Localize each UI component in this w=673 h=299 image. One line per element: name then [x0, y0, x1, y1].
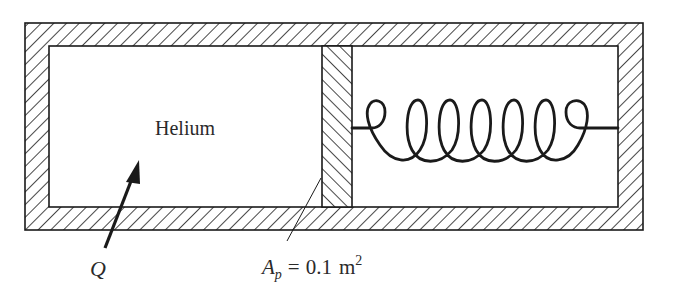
- heat-label: Q: [90, 256, 106, 281]
- heat-arrow: [105, 160, 140, 248]
- area-value: 0.1: [306, 255, 332, 279]
- area-equals: =: [288, 255, 300, 279]
- gas-label: Helium: [155, 117, 215, 139]
- area-unit-exponent: 2: [355, 253, 362, 268]
- area-symbol: A: [260, 255, 275, 279]
- arrowhead-icon: [126, 160, 140, 184]
- piston-cylinder-diagram: Helium Q Ap=0.1m2: [0, 0, 673, 299]
- spring: [352, 100, 618, 161]
- area-subscript: p: [274, 267, 282, 282]
- piston: [322, 46, 352, 207]
- area-unit: m: [339, 255, 355, 279]
- area-label: Ap=0.1m2: [260, 253, 362, 282]
